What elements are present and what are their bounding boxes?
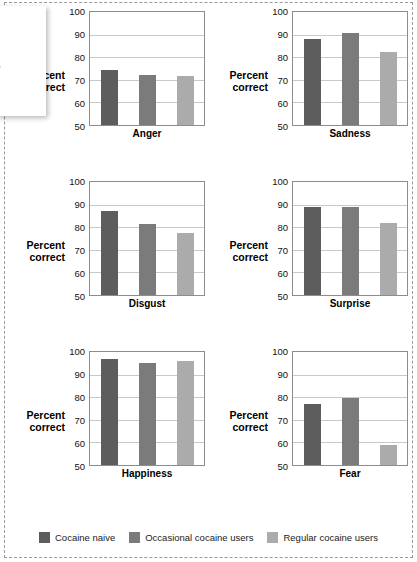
y-tick-60: 60	[277, 268, 288, 279]
y-axis-ticks: 100 90 80 70 60 50	[65, 11, 87, 126]
y-axis-label-line2: correct	[232, 81, 268, 93]
y-axis-label-line2: correct	[29, 251, 65, 263]
bar-cocaine-naive	[304, 207, 321, 295]
y-tick-70: 70	[74, 75, 85, 86]
y-axis-label-line2: correct	[232, 421, 268, 433]
y-axis-label: Percent correct	[7, 409, 65, 433]
y-tick-70: 70	[74, 245, 85, 256]
legend-swatch	[39, 532, 50, 543]
plot-area	[292, 351, 408, 466]
chart-panel-happiness: Percent correct 100 90 80 70 60 50	[7, 351, 207, 491]
bar-regular-users	[380, 52, 397, 125]
y-axis-ticks: 100 90 80 70 60 50	[268, 11, 290, 126]
y-tick-80: 80	[277, 222, 288, 233]
panel-title-happiness: Happiness	[89, 468, 205, 479]
y-tick-100: 100	[272, 176, 288, 187]
y-tick-70: 70	[277, 245, 288, 256]
y-axis-ticks: 100 90 80 70 60 50	[268, 351, 290, 466]
legend-item-cocaine-naive: Cocaine naive	[39, 532, 115, 543]
plot-wrapper: 100 90 80 70 60 50	[268, 351, 410, 491]
bar-occasional-users	[342, 207, 359, 295]
bar-regular-users	[177, 76, 194, 125]
overlay-mark-2: /	[0, 64, 1, 74]
bar-occasional-users	[139, 75, 156, 125]
chart-panel-fear: Percent correct 100 90 80 70 60 50	[210, 351, 410, 491]
y-tick-100: 100	[272, 6, 288, 17]
y-tick-60: 60	[74, 98, 85, 109]
bar-cocaine-naive	[304, 404, 321, 465]
y-axis-label: Percent correct	[210, 69, 268, 93]
y-tick-70: 70	[277, 415, 288, 426]
bar-group	[90, 352, 204, 465]
legend-item-occasional-users: Occasional cocaine users	[129, 532, 253, 543]
plot-area	[292, 181, 408, 296]
plot-wrapper: 100 90 80 70 60 50	[268, 11, 410, 151]
y-axis-label-line2: correct	[29, 421, 65, 433]
bar-group	[90, 12, 204, 125]
y-axis-ticks: 100 90 80 70 60 50	[268, 181, 290, 296]
panel-title-disgust: Disgust	[89, 298, 205, 309]
chart-legend: Cocaine naive Occasional cocaine users R…	[5, 532, 412, 543]
y-tick-90: 90	[277, 29, 288, 40]
plot-wrapper: 100 90 80 70 60 50	[65, 11, 207, 151]
y-tick-80: 80	[277, 52, 288, 63]
bar-regular-users	[177, 233, 194, 295]
y-tick-100: 100	[69, 6, 85, 17]
y-axis-label-line1: Percent	[229, 409, 268, 421]
bar-cocaine-naive	[101, 211, 118, 295]
y-tick-50: 50	[277, 291, 288, 302]
plot-area	[89, 181, 205, 296]
panel-title-surprise: Surprise	[292, 298, 408, 309]
bar-group	[293, 182, 407, 295]
bar-group	[293, 352, 407, 465]
y-tick-90: 90	[74, 369, 85, 380]
y-axis-label-line1: Percent	[26, 239, 65, 251]
bar-cocaine-naive	[101, 70, 118, 125]
legend-item-regular-users: Regular cocaine users	[267, 532, 378, 543]
plot-wrapper: 100 90 80 70 60 50	[65, 181, 207, 321]
page-corner-overlay: | /	[0, 6, 46, 116]
y-tick-50: 50	[277, 121, 288, 132]
y-tick-90: 90	[277, 199, 288, 210]
panel-title-fear: Fear	[292, 468, 408, 479]
legend-label: Occasional cocaine users	[145, 532, 253, 543]
y-tick-80: 80	[74, 222, 85, 233]
y-axis-label-line1: Percent	[229, 239, 268, 251]
bar-regular-users	[177, 361, 194, 465]
y-tick-50: 50	[74, 291, 85, 302]
y-tick-60: 60	[277, 438, 288, 449]
y-axis-label: Percent correct	[7, 239, 65, 263]
plot-area	[89, 11, 205, 126]
chart-panel-disgust: Percent correct 100 90 80 70 60 50	[7, 181, 207, 321]
y-tick-60: 60	[74, 438, 85, 449]
bar-group	[90, 182, 204, 295]
y-tick-50: 50	[277, 461, 288, 472]
plot-wrapper: 100 90 80 70 60 50	[268, 181, 410, 321]
bar-occasional-users	[342, 398, 359, 465]
legend-swatch	[129, 532, 140, 543]
plot-area	[292, 11, 408, 126]
y-axis-label: Percent correct	[210, 409, 268, 433]
bar-occasional-users	[139, 363, 156, 465]
y-tick-80: 80	[74, 52, 85, 63]
y-axis-label: Percent correct	[210, 239, 268, 263]
y-axis-label-line2: correct	[232, 251, 268, 263]
y-tick-60: 60	[74, 268, 85, 279]
y-axis-label-line1: Percent	[26, 409, 65, 421]
legend-label: Regular cocaine users	[283, 532, 378, 543]
figure-panel: Percent correct 100 90 80 70 60 50	[4, 2, 413, 558]
bar-regular-users	[380, 223, 397, 295]
bar-cocaine-naive	[304, 39, 321, 125]
y-tick-90: 90	[74, 29, 85, 40]
y-tick-60: 60	[277, 98, 288, 109]
legend-label: Cocaine naive	[55, 532, 115, 543]
panel-title-sadness: Sadness	[292, 128, 408, 139]
y-tick-80: 80	[277, 392, 288, 403]
y-tick-70: 70	[277, 75, 288, 86]
y-axis-label-line1: Percent	[229, 69, 268, 81]
chart-panel-surprise: Percent correct 100 90 80 70 60 50	[210, 181, 410, 321]
y-tick-90: 90	[74, 199, 85, 210]
bar-occasional-users	[139, 224, 156, 295]
y-tick-100: 100	[272, 346, 288, 357]
y-axis-ticks: 100 90 80 70 60 50	[65, 351, 87, 466]
